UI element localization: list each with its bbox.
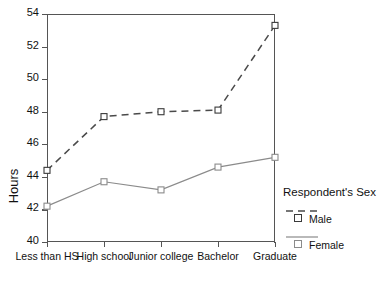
y-tick-label: 44: [27, 169, 39, 181]
y-tick-label: 40: [27, 234, 39, 246]
plot-top-border: [47, 14, 275, 15]
y-tick-label: 42: [27, 201, 39, 213]
y-axis-title: Hours: [6, 156, 22, 216]
x-tick-mark: [47, 242, 48, 247]
x-tick-mark: [275, 242, 276, 247]
y-tick-mark: [42, 144, 47, 145]
x-tick-mark: [161, 242, 162, 247]
y-tick-mark: [42, 79, 47, 80]
x-tick-mark: [218, 242, 219, 247]
y-tick-mark: [42, 209, 47, 210]
legend-entry-male[interactable]: Male: [283, 200, 382, 226]
legend-label: Male: [309, 213, 332, 225]
y-tick: 54: [0, 14, 47, 15]
y-tick: 52: [0, 47, 47, 48]
legend-square-marker-icon: [294, 240, 302, 248]
plot-right-border: [274, 14, 275, 243]
legend-title: Respondent's Sex: [283, 186, 382, 198]
y-tick: 42: [0, 209, 47, 210]
legend: Respondent's Sex MaleFemale: [283, 186, 382, 252]
x-tick-label: High school: [77, 250, 132, 262]
x-tick: Junior college: [161, 242, 162, 243]
legend-label: Female: [309, 239, 344, 251]
y-tick-label: 52: [27, 39, 39, 51]
x-tick: Less than HS: [47, 242, 48, 243]
x-tick: Bachelor: [218, 242, 219, 243]
y-tick: 40: [0, 242, 47, 243]
y-tick: 50: [0, 79, 47, 80]
x-tick: High school: [104, 242, 105, 243]
y-tick-mark: [42, 14, 47, 15]
y-tick-label: 54: [27, 6, 39, 18]
y-tick-label: 46: [27, 136, 39, 148]
y-tick-label: 50: [27, 71, 39, 83]
plot-area: [47, 14, 275, 242]
line-chart: Hours 4042444648505254 Less than HSHigh …: [0, 0, 382, 283]
y-tick: 48: [0, 112, 47, 113]
x-tick-label: Bachelor: [197, 250, 238, 262]
y-tick-label: 48: [27, 104, 39, 116]
y-tick-mark: [42, 112, 47, 113]
legend-entry-female[interactable]: Female: [283, 226, 382, 252]
x-tick-label: Less than HS: [15, 250, 78, 262]
y-tick: 44: [0, 177, 47, 178]
x-tick: Graduate: [275, 242, 276, 243]
y-tick-mark: [42, 177, 47, 178]
legend-square-marker-icon: [294, 214, 302, 222]
legend-entries: MaleFemale: [283, 200, 382, 252]
x-tick-label: Junior college: [129, 250, 194, 262]
y-tick: 46: [0, 144, 47, 145]
y-tick-mark: [42, 47, 47, 48]
x-tick-mark: [104, 242, 105, 247]
